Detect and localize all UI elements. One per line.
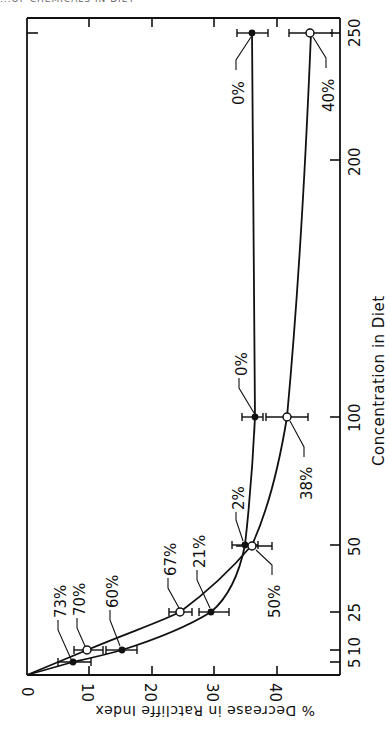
x-tick-25: 25 [346, 603, 364, 622]
open-point-100 [283, 413, 291, 421]
annotation-open-100: 38% [298, 467, 316, 500]
annotation-filled-250: 0% [230, 81, 248, 105]
y-tick-20: 20 [141, 683, 159, 702]
concentration-axis-title: Concentration in Diet [370, 295, 388, 466]
annotation-open-25: 67% [162, 543, 180, 576]
curves [27, 33, 311, 675]
annotation-filled-25: 21% [191, 535, 209, 568]
x-tick-200: 200 [346, 147, 364, 176]
open-point-10 [83, 646, 91, 654]
annotation-filled-50: 2% [230, 486, 248, 510]
annotations: 73% 70% 60% 67% 21% 2% 0% 0% 50% 38% 40% [52, 79, 338, 618]
x-tick-50: 50 [346, 537, 364, 556]
open-series-curve [27, 33, 311, 675]
rotated-line-chart: 0 10 20 30 40 % Decrease in Ratcliffe In… [0, 0, 390, 742]
x-tick-100: 100 [346, 403, 364, 432]
x-tick-5: 5 [346, 658, 364, 668]
percent-axis-ticks [27, 18, 277, 675]
error-bars [58, 29, 332, 666]
open-point-50 [248, 542, 256, 550]
filled-point-25 [208, 609, 215, 616]
y-tick-10: 10 [78, 683, 96, 702]
y-tick-40: 40 [266, 683, 284, 702]
annotation-open-250: 40% [320, 79, 338, 112]
open-point-250 [306, 29, 314, 37]
filled-point-100 [252, 414, 259, 421]
filled-point-5 [70, 659, 77, 666]
x-tick-10: 10 [346, 637, 364, 656]
y-tick-30: 30 [203, 683, 221, 702]
annotation-open-50: 50% [266, 585, 284, 618]
annotation-filled-100: 0% [233, 352, 251, 376]
x-tick-250: 250 [346, 18, 364, 47]
open-point-25 [176, 608, 184, 616]
filled-point-10 [119, 647, 126, 654]
filled-point-250 [249, 30, 256, 37]
percent-axis-title: % Decrease in Ratcliffe Index [95, 703, 315, 719]
annotation-filled-10: 60% [104, 575, 122, 608]
annotation-open-10: 70% [71, 583, 89, 616]
concentration-axis-ticks [330, 33, 340, 662]
y-tick-0: 0 [18, 687, 36, 697]
concentration-axis-labels: 250 200 100 50 25 10 5 [346, 18, 364, 668]
annotation-filled-5: 73% [52, 585, 70, 618]
percent-axis-labels: 0 10 20 30 40 [18, 683, 284, 702]
